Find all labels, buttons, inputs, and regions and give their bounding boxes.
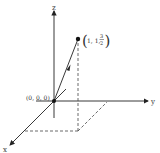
x-axis-label: x [3,146,7,153]
svg-text:): ) [105,32,111,50]
dashed-y-projection [78,102,107,131]
point-label-denominator: 2 [100,40,103,46]
target-point [76,37,80,41]
point-label-numerator: 3 [100,33,103,39]
point-label-prefix: 1, 1, [87,37,100,44]
3d-coordinate-diagram: z y x (0, 0, 0) ( 1, 1, 3 2 ) [0,0,160,153]
origin-point [52,99,56,103]
position-vector [54,39,78,101]
point-label: ( 1, 1, 3 2 ) [82,32,110,50]
z-axis-label: z [52,4,56,12]
y-axis-label: y [150,98,155,106]
origin-label: (0, 0, 0) [26,94,50,101]
